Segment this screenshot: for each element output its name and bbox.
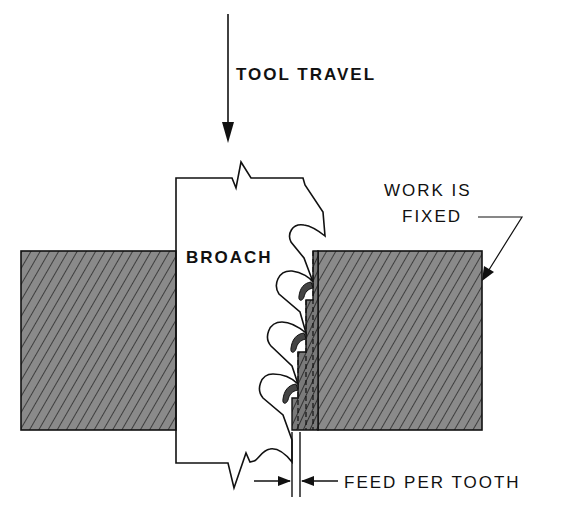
work-is-label: WORK IS	[384, 181, 472, 200]
broach-label: BROACH	[186, 248, 273, 267]
broach-body	[176, 162, 325, 488]
fixed-label: FIXED	[402, 207, 462, 226]
feed-per-tooth-dimension	[254, 432, 338, 497]
work-fixed-leader-arrow	[478, 217, 522, 281]
workpiece-left	[21, 251, 176, 430]
tool-travel-arrow	[222, 14, 234, 143]
workpiece-right	[318, 251, 482, 430]
feed-per-tooth-label: FEED PER TOOTH	[344, 473, 521, 492]
tool-travel-label: TOOL TRAVEL	[236, 65, 376, 84]
broaching-diagram: TOOL TRAVEL BROACH WORK IS FIXED FEED PE…	[0, 0, 586, 512]
